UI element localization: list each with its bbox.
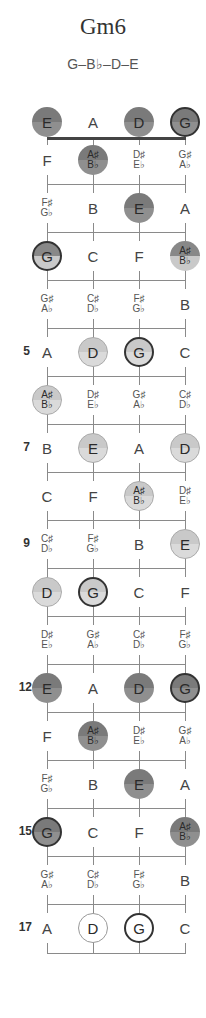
note-name: G xyxy=(41,825,53,840)
note-name: C xyxy=(42,489,53,504)
fret-number: 5 xyxy=(10,344,30,358)
note-flat-name: G♭ xyxy=(133,880,146,890)
note-name: D xyxy=(42,585,53,600)
note-label: C xyxy=(35,481,59,511)
note-name: F xyxy=(134,825,143,840)
note-name: C xyxy=(88,825,99,840)
note-name: E xyxy=(42,681,52,696)
note-label: C♯D♭ xyxy=(35,529,59,559)
note-name: A xyxy=(180,201,190,216)
note-flat-name: A♭ xyxy=(179,160,191,170)
note-label: C xyxy=(173,913,197,943)
note-name: A xyxy=(42,345,52,360)
note-flat-name: G♭ xyxy=(41,208,54,218)
nut-line xyxy=(47,137,186,140)
fret-line xyxy=(47,616,186,617)
note-label: C♯D♭ xyxy=(81,289,105,319)
note-label: C xyxy=(173,337,197,367)
fret-number: 15 xyxy=(12,824,32,838)
note-label: A xyxy=(81,107,105,137)
chord-note-marker: A♯B♭ xyxy=(170,817,200,847)
note-label: F♯G♭ xyxy=(127,289,151,319)
note-label: C xyxy=(81,817,105,847)
note-name: B xyxy=(134,537,144,552)
note-label: A xyxy=(35,337,59,367)
note-flat-name: A♭ xyxy=(41,880,53,890)
fret-line xyxy=(47,760,186,761)
fret-line xyxy=(47,280,186,281)
note-flat-name: A♭ xyxy=(87,640,99,650)
note-flat-name: G♭ xyxy=(41,784,54,794)
note-label: D♯E♭ xyxy=(127,721,151,751)
root-note-marker: G xyxy=(124,337,154,367)
note-label: D♯E♭ xyxy=(173,481,197,511)
note-label: F xyxy=(81,481,105,511)
chord-note-marker: E xyxy=(32,107,62,137)
note-name: C xyxy=(134,585,145,600)
note-name: C xyxy=(180,921,191,936)
chord-note-marker: A♯B♭ xyxy=(78,721,108,751)
chord-note-marker: E xyxy=(124,769,154,799)
note-label: D♯E♭ xyxy=(127,145,151,175)
note-label: G♯A♭ xyxy=(173,721,197,751)
note-flat-name: A♭ xyxy=(41,304,53,314)
note-label: B xyxy=(173,865,197,895)
note-name: A xyxy=(42,921,52,936)
note-flat-name: D♭ xyxy=(87,880,99,890)
note-name: F xyxy=(88,489,97,504)
fret-line xyxy=(47,808,186,809)
note-label: B xyxy=(81,193,105,223)
fret-number: 17 xyxy=(12,920,32,934)
fret-number: 7 xyxy=(10,440,30,454)
note-label: F xyxy=(127,817,151,847)
note-name: A xyxy=(88,115,98,130)
note-label: G♯A♭ xyxy=(35,865,59,895)
note-name: D xyxy=(88,345,99,360)
chord-note-marker: E xyxy=(32,673,62,703)
note-label: B xyxy=(81,769,105,799)
root-note-marker: G xyxy=(32,817,62,847)
note-label: F♯G♭ xyxy=(35,769,59,799)
note-label: C♯D♭ xyxy=(127,625,151,655)
note-label: G♯A♭ xyxy=(35,289,59,319)
fret-line xyxy=(47,712,186,713)
note-name: B xyxy=(180,297,190,312)
note-flat-name: B♭ xyxy=(87,160,99,170)
note-flat-name: E♭ xyxy=(41,640,53,650)
note-label: G♯A♭ xyxy=(127,385,151,415)
fret-line xyxy=(47,520,186,521)
note-name: C xyxy=(88,249,99,264)
note-name: D xyxy=(180,441,191,456)
note-name: E xyxy=(42,115,52,130)
note-label: C♯D♭ xyxy=(81,865,105,895)
note-name: B xyxy=(42,441,52,456)
fret-line xyxy=(47,328,186,329)
note-label: B xyxy=(127,529,151,559)
fretboard-diagram: 579121517EADGFA♯B♭D♯E♭G♯A♭F♯G♭BEAGCFA♯B♭… xyxy=(0,0,206,1018)
fret-line xyxy=(47,376,186,377)
chord-note-marker: D xyxy=(32,577,62,607)
note-flat-name: G♭ xyxy=(87,544,100,554)
note-label: F♯G♭ xyxy=(35,193,59,223)
chord-note-marker: E xyxy=(170,529,200,559)
note-flat-name: B♭ xyxy=(41,400,53,410)
note-name: E xyxy=(134,777,144,792)
note-name: B xyxy=(88,777,98,792)
fret-line xyxy=(47,664,186,665)
note-name: F xyxy=(134,249,143,264)
note-name: F xyxy=(42,729,51,744)
note-label: A xyxy=(35,913,59,943)
note-label: A xyxy=(127,433,151,463)
chord-note-marker: D xyxy=(78,913,108,943)
note-name: A xyxy=(88,681,98,696)
note-label: A xyxy=(81,673,105,703)
note-flat-name: A♭ xyxy=(133,400,145,410)
note-label: F xyxy=(173,577,197,607)
fret-line xyxy=(47,904,186,905)
fret-number: 12 xyxy=(12,680,32,694)
note-name: G xyxy=(41,249,53,264)
note-label: F xyxy=(127,241,151,271)
note-flat-name: B♭ xyxy=(179,832,191,842)
note-name: G xyxy=(87,585,99,600)
chord-note-marker: E xyxy=(78,433,108,463)
